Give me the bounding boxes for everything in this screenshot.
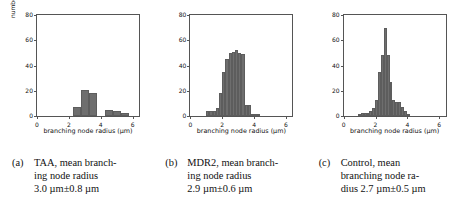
plot-a: number of branching nodes 020406080 0246… bbox=[0, 0, 153, 152]
x-tick-mark bbox=[254, 116, 255, 119]
y-tick-mark bbox=[341, 40, 344, 41]
caption-line1-a: TAA, mean branch- bbox=[34, 157, 117, 168]
y-tick-label: 20 bbox=[15, 88, 33, 94]
caption-b: (b) MDR2, mean branch- ing node radius 2… bbox=[153, 156, 306, 196]
y-tick-label: 20 bbox=[322, 88, 340, 94]
x-tick-mark bbox=[37, 116, 38, 119]
y-tick-mark bbox=[34, 91, 37, 92]
caption-line1-b: MDR2, mean branch- bbox=[187, 157, 278, 168]
caption-line1-c: Control, mean bbox=[341, 157, 400, 168]
plot-c: 020406080 0246 branching node radius (µm… bbox=[307, 0, 460, 152]
y-tick-mark bbox=[187, 91, 190, 92]
y-tick-mark bbox=[34, 15, 37, 16]
x-axis-label-b: branching node radius (µm) bbox=[181, 127, 301, 135]
y-tick-mark bbox=[187, 40, 190, 41]
histogram-bar bbox=[89, 93, 97, 116]
caption-line3-b: 2.9 µm±0.6 µm bbox=[187, 183, 252, 194]
bars-b bbox=[190, 15, 292, 116]
caption-tag-b: (b) bbox=[165, 156, 185, 169]
caption-line3-c: dius 2.7 µm±0.5 µm bbox=[341, 183, 426, 194]
y-tick-label: 60 bbox=[15, 37, 33, 43]
x-tick-mark bbox=[222, 116, 223, 119]
caption-tag-a: (a) bbox=[12, 156, 32, 169]
y-tick-label: 60 bbox=[322, 37, 340, 43]
x-tick-mark bbox=[286, 116, 287, 119]
panel-b: 020406080 0246 branching node radius (µm… bbox=[153, 0, 306, 214]
y-tick-label: 0 bbox=[322, 113, 340, 119]
bars-c bbox=[344, 15, 446, 116]
x-tick-mark bbox=[439, 116, 440, 119]
y-tick-label: 60 bbox=[168, 37, 186, 43]
y-tick-label: 40 bbox=[322, 63, 340, 69]
y-tick-label: 80 bbox=[322, 12, 340, 18]
y-tick-mark bbox=[341, 91, 344, 92]
y-tick-mark bbox=[34, 66, 37, 67]
y-tick-label: 40 bbox=[15, 63, 33, 69]
x-tick-mark bbox=[190, 116, 191, 119]
panel-a: number of branching nodes 020406080 0246… bbox=[0, 0, 153, 214]
y-tick-mark bbox=[341, 66, 344, 67]
y-tick-label: 80 bbox=[15, 12, 33, 18]
caption-c: (c) Control, mean branching node ra- diu… bbox=[307, 156, 460, 196]
y-tick-mark bbox=[341, 15, 344, 16]
caption-line2-b: ing node radius bbox=[187, 170, 251, 181]
histogram-bar bbox=[73, 107, 81, 116]
y-tick-label: 0 bbox=[15, 113, 33, 119]
x-tick-mark bbox=[69, 116, 70, 119]
y-tick-label: 80 bbox=[168, 12, 186, 18]
y-tick-mark bbox=[187, 66, 190, 67]
y-tick-label: 40 bbox=[168, 63, 186, 69]
y-tick-label: 20 bbox=[168, 88, 186, 94]
bars-a bbox=[37, 15, 139, 116]
axes-frame-b: 020406080 0246 bbox=[189, 14, 293, 117]
y-tick-mark bbox=[187, 15, 190, 16]
histogram-bar bbox=[257, 114, 260, 116]
axes-frame-a: 020406080 0246 bbox=[36, 14, 140, 117]
histogram-bar bbox=[113, 111, 121, 116]
x-tick-mark bbox=[101, 116, 102, 119]
y-tick-mark bbox=[34, 40, 37, 41]
caption-tag-c: (c) bbox=[319, 156, 339, 169]
axes-frame-c: 020406080 0246 bbox=[343, 14, 447, 117]
panel-c: 020406080 0246 branching node radius (µm… bbox=[307, 0, 460, 214]
caption-line2-c: branching node ra- bbox=[341, 170, 419, 181]
caption-line3-a: 3.0 µm±0.8 µm bbox=[34, 183, 99, 194]
histogram-bar bbox=[121, 113, 129, 116]
figure-histogram-panels: number of branching nodes 020406080 0246… bbox=[0, 0, 460, 214]
x-tick-mark bbox=[376, 116, 377, 119]
plot-b: 020406080 0246 branching node radius (µm… bbox=[153, 0, 306, 152]
y-tick-label: 0 bbox=[168, 113, 186, 119]
caption-line2-a: ing node radius bbox=[34, 170, 98, 181]
x-axis-label-a: branching node radius (µm) bbox=[28, 127, 148, 135]
caption-a: (a) TAA, mean branch- ing node radius 3.… bbox=[0, 156, 153, 196]
histogram-bar bbox=[81, 90, 89, 117]
histogram-bar bbox=[105, 110, 113, 116]
x-tick-mark bbox=[133, 116, 134, 119]
x-tick-mark bbox=[407, 116, 408, 119]
x-axis-label-c: branching node radius (µm) bbox=[335, 127, 455, 135]
x-tick-mark bbox=[344, 116, 345, 119]
